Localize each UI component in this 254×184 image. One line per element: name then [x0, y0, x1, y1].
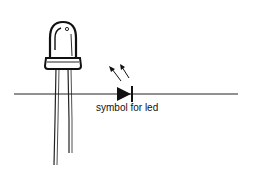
led-schematic-symbol [109, 64, 132, 102]
diagram-canvas [0, 0, 254, 184]
diode-triangle-icon [117, 87, 131, 101]
light-emission-arrows-icon [109, 64, 129, 81]
led-lead-long [54, 68, 56, 165]
diagram-caption: symbol for led [96, 102, 158, 113]
led-collar [45, 58, 81, 69]
led-lead-short-inner [71, 68, 72, 153]
led-lead-long-inner [57, 68, 59, 165]
led-lead-short [68, 68, 69, 153]
